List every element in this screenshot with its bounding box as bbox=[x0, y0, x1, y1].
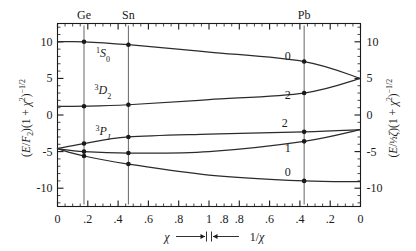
x-tick-label: .8 bbox=[235, 212, 244, 226]
data-point-sn-3P1 bbox=[126, 151, 131, 156]
curve-j-labels: 02210 bbox=[282, 49, 291, 179]
y-tick-label-left: 0 bbox=[47, 108, 53, 122]
curve-label-1s0: 0 bbox=[285, 49, 291, 63]
x-caption-chi: χ bbox=[163, 230, 170, 244]
arrow-left-head bbox=[213, 234, 218, 239]
x-caption-inv-chi: 1/χ bbox=[250, 230, 265, 244]
data-point-ge-3P0 bbox=[82, 154, 87, 159]
element-label-pb: Pb bbox=[298, 8, 311, 22]
data-point-ge-1S0 bbox=[82, 40, 87, 45]
energy-level-diagram: -10-50510 -10-50510 0.2.4.6.81.8.6.4.20.… bbox=[0, 0, 416, 251]
data-point-pb-3D2 bbox=[302, 91, 307, 96]
x-tick-label: .8 bbox=[220, 212, 229, 226]
energy-curves bbox=[58, 42, 361, 182]
plot-svg: -10-50510 -10-50510 0.2.4.6.81.8.6.4.20.… bbox=[0, 0, 416, 251]
x-tick-label: 1 bbox=[206, 212, 212, 226]
y-tick-label-left: 5 bbox=[47, 71, 53, 85]
term-symbol-1: 3D2 bbox=[95, 82, 112, 100]
data-point-pb-3P2 bbox=[302, 130, 307, 135]
y-tick-label-right: 5 bbox=[367, 71, 373, 85]
curve-3P0 bbox=[58, 149, 361, 182]
x-tick-label: .8 bbox=[174, 212, 183, 226]
y-tick-label-right: -10 bbox=[367, 181, 383, 195]
x-tick-label: 0 bbox=[55, 212, 61, 226]
data-point-ge-3P1 bbox=[82, 149, 87, 154]
curve-label-3p2: 2 bbox=[282, 116, 288, 130]
y-tick-label-left: -5 bbox=[43, 145, 53, 159]
data-point-ge-3P2 bbox=[82, 141, 87, 146]
term-j: 2 bbox=[107, 91, 111, 100]
data-point-ge-3D2 bbox=[82, 104, 87, 109]
x-axis-caption: χ1/χ bbox=[163, 230, 265, 244]
element-labels: GeSnPb bbox=[77, 8, 310, 22]
term-symbol-labels: 1S03D23PJ bbox=[95, 46, 112, 142]
y-tick-label-right: 10 bbox=[367, 35, 379, 49]
element-label-ge: Ge bbox=[77, 8, 91, 22]
x-tick-label: 0 bbox=[358, 212, 364, 226]
y-tick-label-left: 10 bbox=[41, 35, 53, 49]
y-tick-label-right: 0 bbox=[367, 108, 373, 122]
arrow-right-head bbox=[201, 234, 206, 239]
y-tick-label-left: -10 bbox=[37, 181, 53, 195]
y-axis-title-right: (E/½ζ)(1 + χ2)−1/2 bbox=[387, 38, 399, 198]
curve-label-3p1: 1 bbox=[285, 141, 291, 155]
data-point-sn-3D2 bbox=[126, 102, 131, 107]
x-tick-label: .4 bbox=[114, 212, 123, 226]
y-axis-ticks-right bbox=[355, 27, 361, 203]
y-tick-labels-left: -10-50510 bbox=[37, 35, 53, 195]
x-tick-label: .4 bbox=[295, 212, 304, 226]
data-point-sn-3P2 bbox=[126, 135, 131, 140]
y-axis-title-left: (E/F2)(1 + χ2)−1/2 bbox=[20, 38, 32, 198]
term-symbol-0: 1S0 bbox=[96, 46, 110, 64]
term-j: 0 bbox=[106, 55, 110, 64]
x-tick-label: .6 bbox=[265, 212, 274, 226]
x-tick-label: .2 bbox=[326, 212, 335, 226]
data-point-pb-3P0 bbox=[302, 179, 307, 184]
data-point-sn-1S0 bbox=[126, 42, 131, 47]
data-point-sn-3P0 bbox=[126, 162, 131, 167]
x-tick-labels: 0.2.4.6.81.8.6.4.20.8 bbox=[55, 212, 364, 226]
element-label-sn: Sn bbox=[122, 8, 135, 22]
y-tick-labels-right: -10-50510 bbox=[367, 35, 383, 195]
x-tick-label: .6 bbox=[144, 212, 153, 226]
inv-chi-symbol: χ bbox=[258, 230, 265, 244]
term-symbol-2: 3PJ bbox=[95, 123, 110, 141]
term-j: J bbox=[107, 132, 111, 141]
y-axis-ticks-left bbox=[58, 27, 64, 203]
element-vlines bbox=[84, 26, 304, 205]
data-point-pb-1S0 bbox=[302, 59, 307, 64]
curve-label-3p0: 0 bbox=[285, 165, 291, 179]
term-letter: D bbox=[98, 83, 108, 97]
data-point-pb-3P1 bbox=[302, 139, 307, 144]
x-tick-label: .2 bbox=[83, 212, 92, 226]
y-tick-label-right: -5 bbox=[367, 145, 377, 159]
curve-label-3d2: 2 bbox=[285, 88, 291, 102]
